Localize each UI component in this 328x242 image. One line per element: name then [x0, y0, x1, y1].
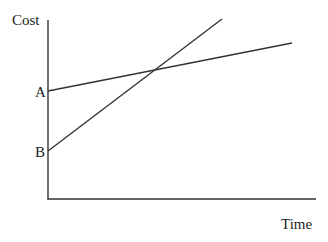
cost-time-diagram: Cost A B Time — [0, 0, 328, 242]
line-b — [48, 19, 222, 151]
line-b-label: B — [35, 144, 45, 160]
line-a-label: A — [35, 84, 46, 100]
x-axis-label: Time — [281, 216, 312, 232]
line-a — [48, 43, 292, 91]
y-axis-label: Cost — [12, 12, 40, 28]
diagram-svg: Cost A B Time — [0, 0, 328, 242]
